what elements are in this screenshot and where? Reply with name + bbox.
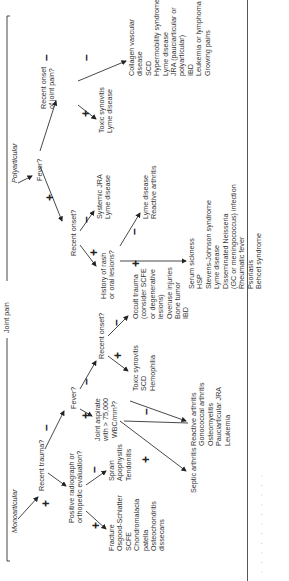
caption: . . . . . . . . . . . — [256, 472, 263, 573]
outcome-collagen: Collagen vascular diseaseSCDHypermobilit… — [128, 0, 212, 76]
plus-sign: + — [90, 522, 102, 529]
plus-sign: + — [88, 249, 100, 256]
plus-sign: + — [80, 110, 92, 117]
outcome-fracture: FractureOsgood-SchlatterSCFEChondromalac… — [108, 495, 167, 551]
outcome-lyme-reactive: Lyme diseaseReactive arthritis — [142, 165, 159, 219]
polyarticular-label: Polyarticular — [11, 143, 19, 183]
plus-sign: + — [40, 500, 52, 507]
q-recent-onset-poly: Recent onset? — [70, 210, 78, 256]
outcome-septic: Septic arthritis — [190, 447, 198, 493]
q-joint-aspirate: Joint aspiratewith > 75,000WBC/mm³? — [94, 398, 119, 441]
outcome-occult: Occult trauma (consider SCFE or degenera… — [132, 267, 191, 319]
minus-sign: – — [40, 54, 52, 61]
minus-sign: – — [80, 378, 92, 385]
q-history-rash: History of rashor oral lesions? — [100, 250, 117, 299]
q-positive-radiograph: Positive radiograph ororthopedic evaluat… — [68, 451, 85, 523]
diagram-canvas: Joint pain Monoarticular Polyarticular R… — [0, 0, 289, 581]
minus-sign: – — [40, 424, 52, 431]
q-recent-trauma: Recent trauma? — [38, 440, 46, 491]
footer-rule — [247, 0, 248, 581]
q-fever-poly: Fever? — [36, 159, 44, 181]
minus-sign: – — [88, 466, 100, 473]
plus-sign: + — [112, 352, 124, 359]
q-recent-onset-mono: Recent onset? — [98, 313, 106, 359]
q-recent-onset-joint-pain: Recent onsetof joint pain? — [40, 67, 57, 109]
q-fever-mono: Fever? — [70, 387, 78, 409]
monoarticular-label: Monoarticular — [11, 489, 19, 533]
plus-sign: + — [80, 412, 92, 419]
plus-sign: + — [44, 194, 56, 201]
outcome-serum: Serum sicknessHSPStevens-Johnson syndrom… — [188, 184, 264, 289]
minus-sign: – — [110, 319, 122, 326]
root-node: Joint pain — [3, 302, 11, 333]
plus-sign: + — [140, 456, 152, 463]
minus-sign: – — [128, 228, 140, 235]
plus-sign: + — [130, 260, 142, 267]
minus-sign: – — [140, 408, 152, 415]
minus-sign: – — [80, 54, 92, 61]
outcome-reactive: Reactive arthritisGonococcal arthritisOs… — [190, 382, 232, 446]
outcome-systemic-jra: Systemic JRALyme disease — [96, 174, 113, 219]
outcome-toxic-mono: Toxic synovitisSCDHemophilia — [132, 345, 157, 391]
outcome-sprain: SprainApophysitisTendonitis — [108, 444, 133, 481]
outcome-toxic-poly: Toxic synovitisLyme disease — [98, 87, 115, 133]
minus-sign: – — [80, 216, 92, 223]
